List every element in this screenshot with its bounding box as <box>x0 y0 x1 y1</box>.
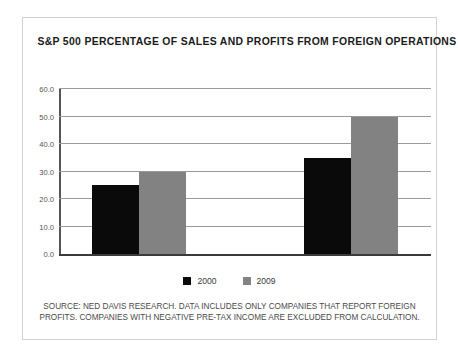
bar-profits-2009 <box>351 117 398 255</box>
y-axis-tick-label: 50.0 <box>39 112 54 121</box>
figure-frame: S&P 500 PERCENTAGE OF SALES AND PROFITS … <box>22 17 437 340</box>
gray-square-swatch <box>243 277 251 285</box>
legend-label: 2009 <box>257 276 276 286</box>
y-axis-tick-label: 0.0 <box>43 250 54 259</box>
bar-profits-2000 <box>304 158 351 254</box>
source-note-line-2: PROFITS. COMPANIES WITH NEGATIVE PRE-TAX… <box>39 312 420 323</box>
legend-entry-2009: 2009 <box>243 276 276 286</box>
y-axis-tick-label: 60.0 <box>39 85 54 94</box>
page-title: S&P 500 PERCENTAGE OF SALES AND PROFITS … <box>37 35 421 47</box>
y-axis-line <box>59 89 61 254</box>
legend-entry-2000: 2000 <box>183 276 216 286</box>
bar-sales-2000 <box>92 185 139 254</box>
x-axis-line <box>59 254 431 256</box>
black-square-swatch <box>183 277 191 285</box>
y-axis-tick-label: 40.0 <box>39 140 54 149</box>
plot-area: 0.010.020.030.040.050.060.0 <box>59 89 431 254</box>
chart-legend: 20002009 <box>23 276 436 286</box>
y-axis-tick-label: 30.0 <box>39 167 54 176</box>
source-note-line-1: SOURCE: NED DAVIS RESEARCH. DATA INCLUDE… <box>39 301 420 312</box>
bar-sales-2009 <box>139 172 186 255</box>
y-axis-tick-label: 10.0 <box>39 222 54 231</box>
legend-label: 2000 <box>197 276 216 286</box>
gridline <box>59 88 431 89</box>
source-note: SOURCE: NED DAVIS RESEARCH. DATA INCLUDE… <box>39 301 420 324</box>
y-axis-tick-label: 20.0 <box>39 195 54 204</box>
